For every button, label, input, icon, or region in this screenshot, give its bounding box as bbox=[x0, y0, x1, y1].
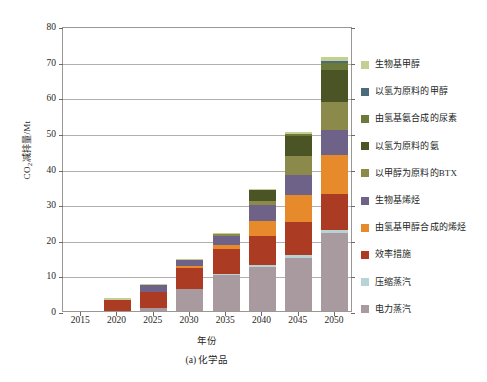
y-tick-label: 0 bbox=[14, 307, 56, 317]
y-tick-label: 80 bbox=[14, 22, 56, 32]
legend-swatch-icon bbox=[361, 305, 369, 313]
legend-swatch-icon bbox=[361, 61, 369, 69]
bar-2045 bbox=[285, 132, 312, 311]
legend-swatch-icon bbox=[361, 169, 369, 177]
y-tick-mark bbox=[351, 206, 355, 207]
legend-swatch-icon bbox=[361, 88, 369, 96]
chart-figure: CO2减排量/Mt 010203040506070802015202020252… bbox=[0, 0, 487, 382]
bar-segment bbox=[321, 233, 348, 311]
gridline bbox=[63, 99, 351, 100]
y-tick-mark bbox=[351, 28, 355, 29]
y-tick-mark bbox=[59, 28, 63, 29]
bar-segment bbox=[176, 268, 203, 289]
bar-segment bbox=[321, 194, 348, 230]
legend-label: 以氢为原料的甲醇 bbox=[375, 86, 448, 97]
legend-label: 以甲醇为原料的BTX bbox=[375, 168, 457, 179]
bar-2030 bbox=[176, 259, 203, 311]
y-tick-mark bbox=[351, 313, 355, 314]
bar-2050 bbox=[321, 57, 348, 311]
legend-item: 由氢基氨合成的尿素 bbox=[361, 105, 487, 132]
bar-segment bbox=[213, 249, 240, 274]
y-tick-mark bbox=[59, 206, 63, 207]
bar-segment bbox=[176, 289, 203, 311]
legend-swatch-icon bbox=[361, 278, 369, 286]
legend-item: 由氢基甲醇合成的烯烃 bbox=[361, 214, 487, 241]
legend-item: 以甲醇为原料的BTX bbox=[361, 160, 487, 187]
legend-label: 压缩蒸汽 bbox=[375, 277, 411, 288]
y-tick-label: 40 bbox=[14, 165, 56, 175]
bar-segment bbox=[321, 130, 348, 155]
y-axis-title: CO2减排量/Mt bbox=[20, 0, 38, 300]
y-tick-mark bbox=[351, 64, 355, 65]
legend-label: 生物基甲醇 bbox=[375, 59, 421, 70]
bar-segment bbox=[321, 70, 348, 103]
bar-segment bbox=[285, 222, 312, 255]
legend-item: 压缩蒸汽 bbox=[361, 269, 487, 296]
legend-swatch-icon bbox=[361, 197, 369, 205]
legend-label: 效率措施 bbox=[375, 249, 411, 260]
y-tick-label: 30 bbox=[14, 200, 56, 210]
bar-2035 bbox=[213, 233, 240, 311]
y-tick-mark bbox=[59, 242, 63, 243]
bar-segment bbox=[140, 308, 167, 311]
y-tick-label: 70 bbox=[14, 58, 56, 68]
y-tick-mark bbox=[351, 171, 355, 172]
y-tick-mark bbox=[351, 99, 355, 100]
bar-2025 bbox=[140, 284, 167, 311]
legend-swatch-icon bbox=[361, 224, 369, 232]
y-tick-mark bbox=[351, 242, 355, 243]
legend-item: 以氢为原料的甲醇 bbox=[361, 78, 487, 105]
y-tick-label: 50 bbox=[14, 129, 56, 139]
legend-swatch-icon bbox=[361, 115, 369, 123]
y-tick-label: 20 bbox=[14, 236, 56, 246]
bar-2040 bbox=[249, 189, 276, 312]
bar-segment bbox=[213, 275, 240, 311]
bar-segment bbox=[321, 102, 348, 130]
plot-area bbox=[62, 27, 352, 312]
legend-label: 电力蒸汽 bbox=[375, 304, 411, 315]
y-tick-mark bbox=[59, 277, 63, 278]
y-tick-mark bbox=[59, 135, 63, 136]
legend-label: 由氢基氨合成的尿素 bbox=[375, 113, 457, 124]
legend: 生物基甲醇以氢为原料的甲醇由氢基氨合成的尿素以氢为原料的氨以甲醇为原料的BTX生… bbox=[361, 51, 487, 323]
bar-2020 bbox=[104, 298, 131, 311]
bar-segment bbox=[104, 300, 131, 311]
bar-segment bbox=[285, 258, 312, 311]
legend-item: 电力蒸汽 bbox=[361, 296, 487, 323]
bar-segment bbox=[249, 190, 276, 201]
y-tick-mark bbox=[351, 277, 355, 278]
bar-segment bbox=[285, 156, 312, 175]
bar-segment bbox=[285, 175, 312, 195]
y-tick-label: 60 bbox=[14, 93, 56, 103]
y-tick-mark bbox=[59, 171, 63, 172]
bar-segment bbox=[249, 221, 276, 236]
bar-segment bbox=[249, 236, 276, 265]
bar-segment bbox=[285, 136, 312, 156]
gridline bbox=[63, 64, 351, 65]
legend-label: 生物基烯烃 bbox=[375, 195, 421, 206]
legend-label: 以氢为原料的氨 bbox=[375, 141, 439, 152]
legend-item: 以氢为原料的氨 bbox=[361, 133, 487, 160]
x-tick-label: 2050 bbox=[309, 315, 359, 325]
bar-segment bbox=[321, 155, 348, 194]
bar-segment bbox=[249, 205, 276, 221]
bar-segment bbox=[249, 267, 276, 311]
bar-segment bbox=[140, 292, 167, 308]
y-tick-mark bbox=[59, 313, 63, 314]
figure-caption: (a) 化学品 bbox=[62, 352, 352, 366]
y-tick-mark bbox=[59, 99, 63, 100]
legend-item: 生物基甲醇 bbox=[361, 51, 487, 78]
bar-segment bbox=[213, 236, 240, 245]
legend-label: 由氢基甲醇合成的烯烃 bbox=[375, 222, 466, 233]
legend-item: 效率措施 bbox=[361, 241, 487, 268]
y-tick-mark bbox=[351, 135, 355, 136]
legend-swatch-icon bbox=[361, 251, 369, 259]
legend-swatch-icon bbox=[361, 142, 369, 150]
legend-item: 生物基烯烃 bbox=[361, 187, 487, 214]
y-axis-title-suffix: 减排量/Mt bbox=[22, 121, 32, 163]
y-tick-label: 10 bbox=[14, 271, 56, 281]
x-axis-title: 年份 bbox=[62, 333, 352, 347]
bar-segment bbox=[285, 195, 312, 223]
y-tick-mark bbox=[59, 64, 63, 65]
